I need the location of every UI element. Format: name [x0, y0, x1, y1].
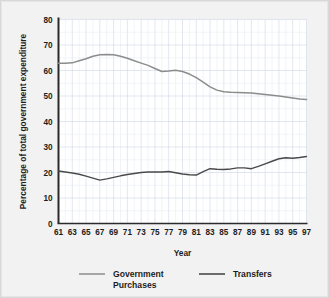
x-tick-labels: 61636567697173757779818385878991939597 [54, 228, 312, 237]
x-tick-label: 65 [82, 228, 92, 237]
x-tick-label: 67 [95, 228, 105, 237]
x-tick-label: 91 [261, 228, 271, 237]
y-tick-label: 60 [43, 67, 53, 76]
x-tick-label: 79 [178, 228, 188, 237]
x-tick-label: 77 [164, 228, 174, 237]
x-tick-label: 73 [137, 228, 147, 237]
x-tick-label: 87 [233, 228, 243, 237]
y-tick-label: 50 [43, 92, 53, 101]
svg-text:Year: Year [174, 248, 192, 258]
y-tick-labels: 01020304050607080 [43, 16, 53, 229]
chart-figure: 01020304050607080 6163656769717375777981… [0, 0, 329, 298]
x-tick-label: 89 [247, 228, 257, 237]
x-tick-label: 71 [123, 228, 133, 237]
y-tick-label: 30 [43, 143, 53, 152]
x-tick-label: 75 [150, 228, 160, 237]
line-chart: 01020304050607080 6163656769717375777981… [1, 1, 329, 298]
legend-label: Transfers [233, 269, 272, 279]
x-tick-label: 63 [68, 228, 78, 237]
y-tick-label: 70 [43, 41, 53, 50]
x-tick-label: 83 [206, 228, 216, 237]
x-axis-title: Year [174, 248, 192, 258]
y-tick-label: 20 [43, 169, 53, 178]
y-axis-title: Percentage of total government expenditu… [18, 33, 28, 209]
x-tick-label: 81 [192, 228, 202, 237]
x-tick-label: 69 [109, 228, 119, 237]
x-tick-label: 97 [302, 228, 312, 237]
x-tick-label: 93 [274, 228, 284, 237]
svg-text:Percentage of total government: Percentage of total government expenditu… [18, 33, 28, 209]
y-tick-label: 10 [43, 194, 53, 203]
x-tick-label: 61 [54, 228, 64, 237]
y-tick-label: 0 [48, 220, 53, 229]
y-tick-label: 40 [43, 118, 53, 127]
x-tick-label: 85 [219, 228, 229, 237]
legend-label: Government [113, 269, 164, 279]
y-tick-label: 80 [43, 16, 53, 25]
chart-legend: GovernmentPurchasesTransfers [79, 269, 272, 290]
legend-label-line2: Purchases [113, 280, 157, 290]
x-tick-label: 95 [288, 228, 298, 237]
